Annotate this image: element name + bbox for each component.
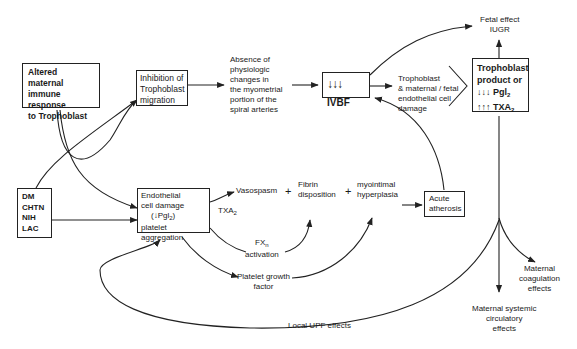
- absence-physiologic-label: Absence of physiologic changes in the my…: [230, 55, 282, 115]
- risk-factors-box: DM CHTN NIH LAC: [17, 188, 52, 238]
- pgi-label: Pgl: [493, 87, 507, 97]
- text-line: CHTN: [22, 203, 47, 214]
- text-line: (↓Pgl: [151, 211, 169, 220]
- endothelial-damage-box: Endothelial cell damage (↓Pgl2) platelet…: [137, 188, 210, 233]
- text-line: circulatory: [472, 314, 536, 324]
- text-line: Absence of: [230, 55, 282, 65]
- txa-label: TXA: [493, 102, 511, 112]
- txa2-label: TXA2: [218, 206, 237, 218]
- myointimal-label: myointimal hyperplasia: [357, 180, 398, 200]
- text-line: Fetal effect: [480, 15, 519, 25]
- down-arrows-icon: ↓↓↓: [327, 77, 342, 91]
- text-line: Platelet growth: [237, 272, 290, 282]
- text-line: endothelial cell: [398, 94, 458, 104]
- text-line: product or: [477, 74, 524, 86]
- text-line: DM: [22, 192, 47, 203]
- fetal-effect-label: Fetal effect IUGR: [480, 15, 519, 35]
- text-line: Maternal systemic: [472, 304, 536, 314]
- maternal-systemic-label: Maternal systemic circulatory effects: [472, 304, 536, 334]
- connector-arrows: [0, 0, 577, 349]
- text-line: coagulation: [519, 274, 560, 284]
- text-line: cell damage: [141, 201, 206, 211]
- text-line: Acute: [429, 194, 460, 204]
- text-line: changes in: [230, 75, 282, 85]
- text-line: myointimal: [357, 180, 398, 190]
- acute-atherosis-box: Acute atherosis: [424, 191, 465, 217]
- text-line: hyperplasia: [357, 190, 398, 200]
- text-line: immune response: [28, 89, 94, 111]
- trophoblast-damage-label: Trophoblast & maternal / fetal endotheli…: [398, 74, 458, 114]
- text-line: spiral arteries: [230, 105, 282, 115]
- text-line: Altered maternal: [28, 67, 94, 89]
- text-line: effects: [472, 324, 536, 334]
- text-line: migration: [140, 95, 184, 106]
- subscript: n: [265, 242, 268, 248]
- text-line: activation: [245, 250, 279, 260]
- plus-sign: +: [345, 186, 351, 196]
- fx-activation-label: FXn activation: [245, 238, 279, 260]
- text-line: portion of the: [230, 95, 282, 105]
- text-line: LAC: [22, 224, 47, 235]
- fibrin-label: Fibrin disposition: [298, 180, 336, 200]
- text-line: +: [285, 185, 291, 197]
- text-line: NIH: [22, 213, 47, 224]
- text-line: Vasospasm: [236, 186, 277, 195]
- ivbf-box: ↓↓↓ IVBF: [322, 72, 370, 98]
- text-line: Local UPF effects: [288, 321, 351, 330]
- text-line: atherosis: [429, 204, 460, 214]
- text-line: IUGR: [480, 25, 519, 35]
- text-line: factor: [237, 282, 290, 292]
- vasospasm-label: Vasospasm: [236, 186, 277, 196]
- local-upf-label: Local UPF effects: [288, 321, 351, 331]
- text-line: platelet aggregation: [141, 223, 206, 243]
- text-line: to Trophoblast: [28, 111, 94, 122]
- text-line: Maternal: [519, 264, 560, 274]
- increase-arrows-icon: ↑↑↑: [477, 102, 491, 112]
- platelet-growth-label: Platelet growth factor: [237, 272, 290, 292]
- text-line: effects: [519, 284, 560, 294]
- text-line: damage: [398, 104, 458, 114]
- maternal-coagulation-label: Maternal coagulation effects: [519, 264, 560, 294]
- increase-arrows-icon: ↓↓↓: [477, 87, 491, 97]
- subscript: 2: [234, 210, 237, 216]
- text-line: Fibrin: [298, 180, 336, 190]
- inhibition-migration-box: Inhibition of Trophoblast migration: [136, 70, 188, 106]
- text-line: Trophoblast: [140, 84, 184, 95]
- text-line: Endothelial: [141, 191, 206, 201]
- subscript: 2: [511, 107, 514, 113]
- text-line: Trophoblast: [398, 74, 458, 84]
- plus-sign: +: [285, 186, 291, 196]
- altered-immune-response-box: Altered maternal immune response to Trop…: [22, 63, 100, 108]
- text-line: Inhibition of: [140, 73, 184, 84]
- text-line: +: [345, 185, 351, 197]
- text-line: & maternal / fetal: [398, 84, 458, 94]
- text-line: Trophoblast: [477, 62, 524, 74]
- text-line: TXA: [218, 206, 234, 215]
- text-line: disposition: [298, 190, 336, 200]
- subscript: 2: [507, 92, 510, 98]
- text-line: ): [173, 211, 176, 220]
- ivbf-label: IVBF: [327, 97, 350, 108]
- text-line: FX: [255, 238, 265, 247]
- trophoblast-product-box: Trophoblast product or ↓↓↓ Pgl2 ↑↑↑ TXA2: [472, 58, 529, 112]
- text-line: physiologic: [230, 65, 282, 75]
- text-line: the myometrial: [230, 85, 282, 95]
